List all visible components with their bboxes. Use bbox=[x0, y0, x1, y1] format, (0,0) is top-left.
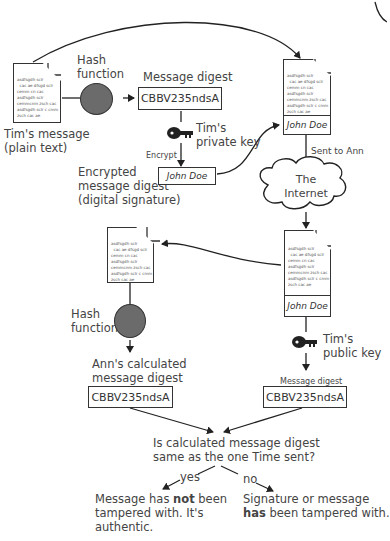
public-key-icon bbox=[292, 336, 317, 348]
receiver-hash-function-icon bbox=[114, 304, 146, 338]
received-signature: John Doe bbox=[284, 295, 331, 317]
receiver-hash-label: Hash function bbox=[71, 307, 118, 335]
sent-document: asdfsgdh sclr cac ae dfsgd sclr cemm cn … bbox=[283, 59, 331, 135]
no-label: no bbox=[243, 472, 257, 486]
tim-message-document: asdfsgdh sclr cac ae dfsgd sclr cemm cn … bbox=[13, 63, 61, 123]
sender-digest-label: Message digest bbox=[143, 70, 232, 84]
sent-to-ann-label: Sent to Ann bbox=[311, 146, 364, 156]
sender-hash-function-icon bbox=[80, 83, 113, 115]
internet-label: The Internet bbox=[283, 173, 329, 201]
received-document: asdfsgdh sclr cac ae dfsgd sclr cemm cn … bbox=[284, 230, 331, 317]
public-key-label: Tim's public key bbox=[323, 332, 381, 360]
sender-digest-box: CBBV235ndsA bbox=[138, 87, 222, 110]
comparison-question: Is calculated message digest same as the… bbox=[153, 436, 320, 464]
decrypted-digest-box: CBBV235ndsA bbox=[263, 386, 347, 408]
authentic-result: Message has not been tampered with. It's… bbox=[95, 492, 227, 534]
document-text: asdfsgdh sclr cac ae dfsgd sclr cemm cn … bbox=[288, 246, 329, 288]
document-text: asdfsgdh sclr cac ae dfsgd sclr cemm cn … bbox=[111, 241, 152, 283]
receiver-document: asdfsgdh sclr cac ae dfsgd sclr cemm cn … bbox=[107, 227, 154, 283]
sender-hash-label: Hash function bbox=[77, 53, 124, 81]
encrypt-label: Encrypt bbox=[146, 151, 177, 160]
calculated-digest-box: CBBV235ndsA bbox=[88, 386, 173, 408]
decrypted-digest-label: Message digest bbox=[280, 377, 342, 386]
private-key-label: Tim's private key bbox=[196, 121, 260, 149]
private-key-icon bbox=[167, 127, 193, 139]
calculated-digest-label: Ann's calculated message digest bbox=[92, 357, 187, 385]
tim-message-label: Tim's message (plain text) bbox=[4, 127, 90, 155]
sent-signature: John Doe bbox=[283, 115, 331, 135]
tampered-result: Signature or message has been tampered w… bbox=[243, 492, 390, 520]
digital-signature-box: John Doe bbox=[158, 167, 216, 185]
document-text: asdfsgdh sclr cac ae dfsgd sclr cemm cn … bbox=[17, 77, 58, 119]
yes-label: yes bbox=[180, 470, 200, 484]
document-text: asdfsgdh sclr cac ae dfsgd sclr cemm cn … bbox=[287, 73, 328, 115]
